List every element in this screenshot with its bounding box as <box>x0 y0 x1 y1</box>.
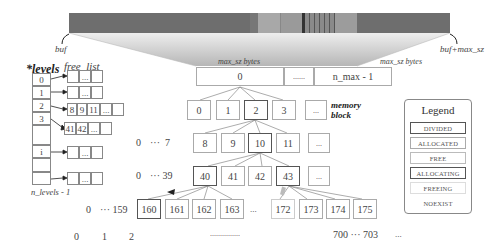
level5-tail: ... <box>395 229 402 239</box>
free-list-node <box>91 172 103 185</box>
memory-block-allocated: 161 <box>165 199 189 219</box>
top-block-last: n_max - 1 <box>314 67 392 86</box>
free-list-node: 41 <box>64 122 76 135</box>
level5-item: 0 <box>74 231 79 242</box>
size-label-first: max_sz bytes <box>218 57 260 66</box>
legend-item-noexist: NOEXIST <box>410 197 466 209</box>
free-list-node: ... <box>79 70 91 83</box>
buffer-segment <box>335 13 357 33</box>
memory-block-free: 0 <box>187 100 211 120</box>
buffer-segment <box>258 13 280 33</box>
level5-middle-dots: ............... <box>210 229 240 238</box>
free-list-node <box>67 172 79 185</box>
dots: ··· <box>100 204 110 215</box>
buffer-segment <box>250 13 258 33</box>
prefix-end: 7 <box>165 137 170 148</box>
memory-block-free: 11 <box>276 133 300 153</box>
legend-item-divided: DIVIDED <box>410 122 466 134</box>
free-list-node <box>67 86 79 99</box>
range-start: 700 <box>333 229 348 240</box>
level3-prefix: ··· 39 <box>150 170 173 181</box>
level5-item: 1 <box>102 231 107 242</box>
dots: ··· <box>150 137 160 148</box>
buffer-segment <box>69 13 250 33</box>
legend-panel: Legend DIVIDED ALLOCATED FREE ALLOCATING… <box>404 99 472 214</box>
legend-item-freeing: FREEING <box>410 182 466 194</box>
buffer-segment <box>357 13 450 33</box>
memory-block-divided: 40 <box>193 166 217 186</box>
free-list-node: ... <box>100 103 112 116</box>
legend-item-free: FREE <box>410 152 466 164</box>
memory-block-allocated: 8 <box>193 133 217 153</box>
free-list-node <box>91 86 103 99</box>
memory-block-free: 175 <box>353 199 377 219</box>
free-list-node: 42 <box>76 122 88 135</box>
free-list-node: 11 <box>87 103 100 116</box>
prefix-end: 159 <box>113 204 128 215</box>
memory-block-more: ... <box>305 100 327 120</box>
memory-block-allocated: 9 <box>221 133 245 153</box>
memory-block-freeing: 172 <box>271 199 295 219</box>
free-list-node: ... <box>79 86 91 99</box>
buffer-segment <box>305 13 335 33</box>
free-list-node <box>91 70 103 83</box>
level-entry <box>32 125 51 145</box>
level5-range: 700 ··· 703 <box>333 229 378 240</box>
free-list-node <box>100 122 112 135</box>
memory-block-divided: 2 <box>244 100 268 120</box>
free-list-node: ... <box>88 122 100 135</box>
level2-prefix: ··· 7 <box>150 137 170 148</box>
memory-block-more: ... <box>308 133 330 153</box>
level-entry <box>32 172 51 185</box>
free-list-node <box>67 146 79 159</box>
legend-item-allocating: ALLOCATING <box>410 167 466 179</box>
level4-prefix-start: 0 <box>86 204 91 215</box>
memory-block-allocated: 163 <box>220 199 244 219</box>
level-entry: i <box>32 145 51 158</box>
range-end: 703 <box>363 229 378 240</box>
top-block-dots: ...... <box>284 67 314 86</box>
free-list-node: 9 <box>77 103 87 116</box>
memory-block-allocating: 160 <box>137 199 161 219</box>
memory-block-allocated: 174 <box>326 199 350 219</box>
range-dots: ··· <box>351 229 361 240</box>
top-block-first: 0 <box>196 67 284 86</box>
level4-prefix: ··· 159 <box>100 204 128 215</box>
legend-title: Legend <box>405 104 471 116</box>
legend-item-allocated: ALLOCATED <box>410 137 466 149</box>
level-entry: 3 <box>32 112 51 125</box>
free-list-node: 8 <box>67 103 77 116</box>
free-list-node <box>91 146 103 159</box>
level-entry: 1 <box>32 86 51 99</box>
free-list-node: ... <box>79 146 91 159</box>
level4-dots: ... <box>250 204 257 214</box>
memory-block-allocated: 173 <box>299 199 323 219</box>
level-entry: 2 <box>32 99 51 112</box>
memory-block-allocated: 41 <box>221 166 245 186</box>
free-list-node <box>67 70 79 83</box>
size-label-last: max_sz bytes <box>380 57 422 66</box>
level2-prefix-start: 0 <box>136 137 141 148</box>
level-entry: 0 <box>32 73 51 86</box>
memory-block-divided: 10 <box>248 133 272 153</box>
dots: ··· <box>150 170 160 181</box>
buffer-segment <box>280 13 302 33</box>
buf-start-label: buf <box>55 44 67 54</box>
memory-block-label: memory block <box>331 100 371 120</box>
memory-block-allocated: 42 <box>248 166 272 186</box>
free-list-node: ... <box>79 172 91 185</box>
level-entry <box>32 158 51 172</box>
n-levels-label: n_levels - 1 <box>31 187 70 197</box>
free-list-node <box>112 103 124 116</box>
memory-block-more: ... <box>308 166 330 186</box>
level3-prefix-start: 0 <box>136 170 141 181</box>
level5-item: 2 <box>129 231 134 242</box>
memory-block-allocated: 162 <box>192 199 216 219</box>
memory-block-free: 1 <box>216 100 240 120</box>
prefix-end: 39 <box>163 170 173 181</box>
memory-block-free: 3 <box>272 100 296 120</box>
buf-end-label: buf+max_sz <box>440 44 484 54</box>
memory-block-divided: 43 <box>276 166 300 186</box>
